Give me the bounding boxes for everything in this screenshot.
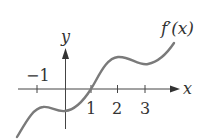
tick-label-2: 2 — [112, 99, 122, 118]
derivative-curve — [17, 43, 174, 137]
curve-label: f′(x) — [159, 18, 194, 38]
y-axis-label: y — [60, 27, 71, 46]
tick-label-3: 3 — [140, 99, 150, 118]
x-axis-label: x — [183, 79, 192, 98]
y-axis-arrow-icon — [62, 48, 69, 59]
tick-label-1: 1 — [86, 99, 96, 118]
graph-canvas: −1 1 2 3 x y f′(x) — [0, 0, 209, 139]
x-axis-arrow-icon — [170, 86, 180, 93]
tick-label-neg1: −1 — [26, 66, 50, 85]
